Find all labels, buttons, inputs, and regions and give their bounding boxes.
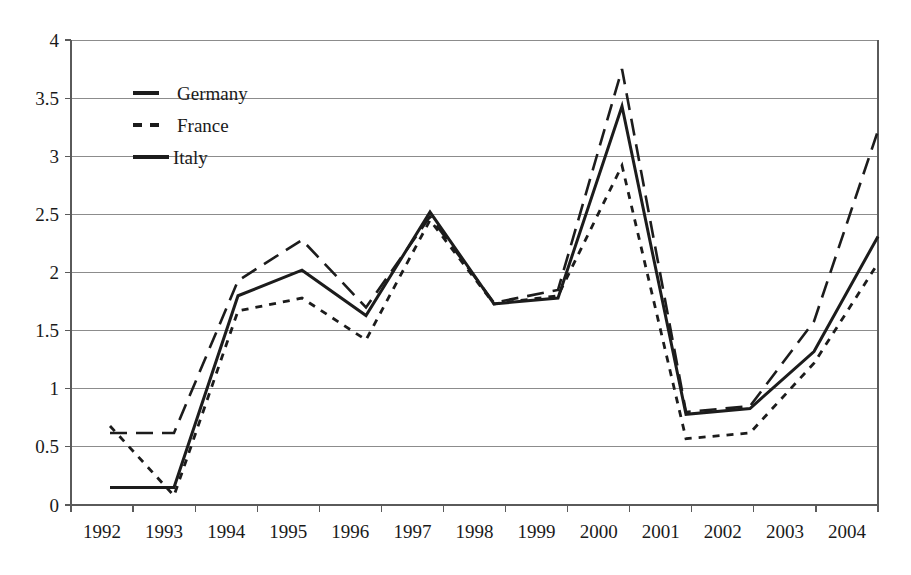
x-axis-label-1996: 1996: [331, 521, 369, 542]
y-axis-label-0: 0: [50, 495, 60, 516]
x-axis-label-1992: 1992: [83, 521, 121, 542]
y-axis-label-0.5: 0.5: [35, 436, 59, 457]
chart-canvas: 00.511.522.533.54 1992199319941995199619…: [0, 0, 911, 575]
x-axis-label-2002: 2002: [704, 521, 742, 542]
y-axis-label-1.5: 1.5: [35, 320, 59, 341]
x-axis-label-2004: 2004: [828, 521, 867, 542]
y-axis-label-3.5: 3.5: [35, 88, 59, 109]
x-axis-label-1995: 1995: [269, 521, 307, 542]
legend-label-france: France: [177, 115, 229, 136]
x-axis-label-2001: 2001: [642, 521, 680, 542]
x-axis-label-1999: 1999: [518, 521, 556, 542]
x-axis-label-1998: 1998: [456, 521, 494, 542]
y-axis-label-2.5: 2.5: [35, 204, 59, 225]
x-axis-label-1993: 1993: [145, 521, 183, 542]
x-axis-label-2003: 2003: [766, 521, 804, 542]
y-axis-label-2: 2: [50, 262, 60, 283]
y-axis-label-3: 3: [50, 146, 60, 167]
x-axis-label-2000: 2000: [580, 521, 618, 542]
y-axis-label-4: 4: [50, 30, 60, 51]
legend-label-italy: Italy: [173, 147, 208, 168]
x-axis-label-1994: 1994: [207, 521, 246, 542]
legend-label-germany: Germany: [177, 83, 248, 104]
y-axis-label-1: 1: [50, 378, 60, 399]
line-chart: 00.511.522.533.54 1992199319941995199619…: [0, 0, 911, 575]
x-axis-label-1997: 1997: [393, 521, 431, 542]
